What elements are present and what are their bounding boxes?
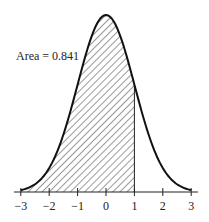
x-tick-label: −3 — [14, 199, 27, 214]
x-tick-label: 1 — [131, 199, 137, 214]
x-tick-label: −2 — [43, 199, 56, 214]
x-tick-label: 0 — [103, 199, 109, 214]
normal-curve-chart — [0, 0, 209, 222]
area-annotation: Area = 0.841 — [16, 49, 79, 64]
shaded-area — [21, 15, 135, 192]
x-tick-label: 2 — [160, 199, 166, 214]
x-tick-label: 3 — [188, 199, 194, 214]
x-tick-label: −1 — [71, 199, 84, 214]
